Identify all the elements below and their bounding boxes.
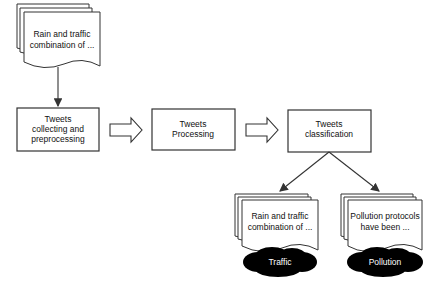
input-document-line-2: combination of ... bbox=[30, 40, 95, 50]
box-2-line-1: Tweets bbox=[180, 119, 207, 129]
block-arrow-2-right-icon bbox=[246, 118, 278, 142]
box-2-line-2: Processing bbox=[172, 129, 214, 139]
box-3-line-1: Tweets bbox=[316, 119, 343, 129]
traffic-cloud: Traffic bbox=[243, 247, 317, 277]
box-3-line-2: classification bbox=[305, 129, 353, 139]
traffic-cloud-label: Traffic bbox=[268, 257, 292, 267]
input-document-stack: Rain and traffic combination of ... bbox=[17, 4, 100, 68]
input-document-line-1: Rain and traffic bbox=[33, 29, 91, 39]
traffic-doc-line-2: combination of ... bbox=[248, 222, 313, 232]
output-document-stack-traffic: Rain and traffic combination of ... bbox=[235, 194, 318, 252]
arrow-classification-to-pollution bbox=[329, 152, 379, 191]
pollution-doc-line-2: have been ... bbox=[360, 222, 409, 232]
process-box-classification: Tweets classification bbox=[288, 110, 371, 152]
block-arrow-1-right-icon bbox=[110, 118, 142, 142]
box-1-line-3: preprocessing bbox=[31, 134, 85, 144]
process-box-processing: Tweets Processing bbox=[152, 109, 235, 150]
process-box-collecting: Tweets collecting and preprocessing bbox=[17, 108, 99, 151]
arrow-classification-to-traffic bbox=[280, 152, 329, 191]
pipeline-diagram: Rain and traffic combination of ... Twee… bbox=[0, 0, 440, 291]
pollution-doc-line-1: Pollution protocols bbox=[350, 211, 419, 221]
pollution-cloud: Pollution bbox=[347, 247, 423, 277]
traffic-doc-line-1: Rain and traffic bbox=[251, 211, 309, 221]
box-1-line-2: collecting and bbox=[32, 124, 84, 134]
pollution-cloud-label: Pollution bbox=[369, 257, 402, 267]
box-1-line-1: Tweets bbox=[45, 114, 72, 124]
output-document-stack-pollution: Pollution protocols have been ... bbox=[341, 194, 422, 252]
